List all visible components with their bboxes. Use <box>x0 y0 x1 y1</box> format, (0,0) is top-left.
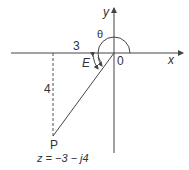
x-axis-label: x <box>167 53 175 67</box>
y-axis-label: y <box>102 5 110 19</box>
angle-e-arc <box>93 56 98 69</box>
vertical-length-label: 4 <box>44 82 51 96</box>
horizontal-length-label: 3 <box>73 39 80 53</box>
point-p-label: P <box>50 138 58 152</box>
point-equation: z = −3 − j4 <box>36 152 89 164</box>
diagram-canvas: y x 0 θ 3 4 E P z = −3 − j4 <box>0 0 189 170</box>
theta-label: θ <box>97 28 103 40</box>
angle-e-label: E <box>82 56 91 70</box>
origin-label: 0 <box>117 54 124 68</box>
argand-diagram: y x 0 θ 3 4 E P z = −3 − j4 <box>0 0 189 170</box>
